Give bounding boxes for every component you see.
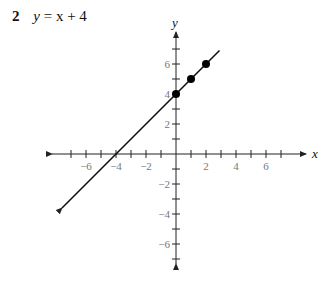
y-tick-label: −2 bbox=[158, 178, 170, 190]
x-tick-label: −2 bbox=[140, 160, 152, 172]
x-tick-label: −6 bbox=[80, 160, 92, 172]
x-tick-label: 6 bbox=[263, 160, 269, 172]
line-y-equals-x-plus-4 bbox=[62, 51, 220, 209]
point-2-6 bbox=[202, 60, 210, 68]
x-tick-label: −4 bbox=[110, 160, 122, 172]
y-tick-label: 2 bbox=[165, 118, 171, 130]
point-1-5 bbox=[187, 75, 195, 83]
point-0-4 bbox=[172, 90, 180, 98]
x-tick-label: 2 bbox=[203, 160, 209, 172]
y-tick-label: 4 bbox=[165, 88, 171, 100]
y-tick-label: −6 bbox=[158, 238, 170, 250]
y-axis-label: y bbox=[170, 15, 178, 30]
y-tick-label: −4 bbox=[158, 208, 170, 220]
y-tick-label: 6 bbox=[165, 58, 171, 70]
x-tick-label: 4 bbox=[233, 160, 239, 172]
x-axis-label: x bbox=[311, 146, 318, 161]
graph: −6 −4 −2 2 4 6 6 4 2 −2 −4 −6 x y bbox=[0, 0, 334, 282]
